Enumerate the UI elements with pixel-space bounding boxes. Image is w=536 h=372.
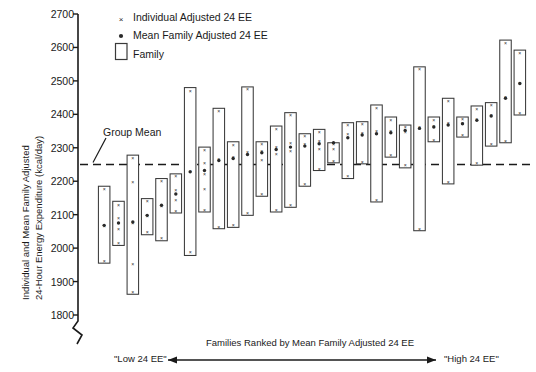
individual-marker-x-icon: ×: [217, 224, 220, 230]
individual-marker-x-icon: ×: [174, 187, 177, 193]
family-mean-marker-dot-icon: [332, 141, 335, 144]
family-group: ×××: [98, 186, 110, 264]
family-group: ×××: [342, 122, 354, 179]
family-range-box: [156, 179, 168, 241]
family-group: ×××: [414, 66, 426, 232]
individual-marker-x-icon: ×: [346, 131, 349, 137]
individual-marker-x-icon: ×: [346, 122, 349, 128]
family-group: ××××: [285, 112, 297, 208]
individual-marker-x-icon: ×: [289, 140, 292, 146]
family-mean-marker-dot-icon: [131, 220, 134, 223]
family-mean-marker-dot-icon: [160, 204, 163, 207]
individual-marker-x-icon: ×: [146, 229, 149, 235]
family-mean-marker-dot-icon: [475, 119, 478, 122]
family-group: ××××: [256, 141, 268, 197]
family-mean-marker-dot-icon: [317, 142, 320, 145]
family-mean-marker-dot-icon: [217, 159, 220, 162]
family-range-box: [270, 126, 282, 212]
arrow-right-icon: [427, 356, 436, 363]
individual-marker-x-icon: ×: [447, 98, 450, 104]
individual-marker-x-icon: ×: [246, 210, 249, 216]
family-mean-marker-dot-icon: [174, 192, 177, 195]
family-mean-marker-dot-icon: [102, 224, 105, 227]
individual-marker-x-icon: ×: [289, 148, 292, 154]
individual-marker-x-icon: ×: [289, 112, 292, 118]
individual-marker-x-icon: ×: [447, 179, 450, 185]
individual-marker-x-icon: ×: [504, 40, 507, 46]
individual-marker-x-icon: ×: [518, 50, 521, 56]
family-group: ×××: [184, 88, 196, 256]
family-range-box: [285, 113, 297, 208]
family-mean-marker-dot-icon: [360, 133, 363, 136]
family-group: ××××: [170, 173, 182, 213]
family-group: ×××: [299, 133, 311, 187]
individual-marker-x-icon: ×: [289, 202, 292, 208]
individual-marker-x-icon: ×: [432, 117, 435, 123]
individual-marker-x-icon: ×: [131, 179, 134, 185]
individual-marker-x-icon: ×: [318, 129, 321, 135]
individual-marker-x-icon: ×: [117, 226, 120, 232]
family-group: ×××: [385, 117, 397, 159]
individual-marker-x-icon: ×: [361, 121, 364, 127]
individual-marker-x-icon: ×: [160, 178, 163, 184]
family-mean-marker-dot-icon: [203, 169, 206, 172]
individual-marker-x-icon: ×: [461, 132, 464, 138]
family-group: ×××: [356, 121, 368, 165]
individual-marker-x-icon: ×: [232, 222, 235, 228]
individual-marker-x-icon: ×: [174, 197, 177, 203]
individual-marker-x-icon: ×: [303, 181, 306, 187]
individual-marker-x-icon: ×: [332, 158, 335, 164]
family-range-box: [442, 98, 454, 184]
family-mean-marker-dot-icon: [145, 214, 148, 217]
family-mean-marker-dot-icon: [231, 157, 234, 160]
individual-marker-x-icon: ×: [475, 106, 478, 112]
family-group: ×××: [213, 108, 225, 229]
family-mean-marker-dot-icon: [403, 129, 406, 132]
family-group: ×××: [442, 98, 454, 185]
individual-marker-x-icon: ×: [490, 141, 493, 147]
individual-marker-x-icon: ×: [131, 289, 134, 295]
individual-marker-x-icon: ×: [203, 160, 206, 166]
family-mean-marker-dot-icon: [418, 127, 421, 130]
individual-marker-x-icon: ×: [332, 146, 335, 152]
family-group: ××××: [270, 126, 282, 213]
family-mean-marker-dot-icon: [246, 153, 249, 156]
family-range-box: [485, 103, 497, 146]
individual-marker-x-icon: ×: [189, 88, 192, 94]
family-group: ×××: [457, 116, 469, 139]
y-axis-line: [73, 14, 82, 344]
family-group: ×××: [328, 141, 340, 164]
family-group: ×××: [428, 117, 440, 143]
individual-marker-x-icon: ×: [504, 138, 507, 144]
family-mean-marker-dot-icon: [504, 97, 507, 100]
individual-marker-x-icon: ×: [318, 146, 321, 152]
plot-canvas: ××××××××××××××××××××××××××××××××××××××××…: [0, 0, 536, 372]
individual-marker-x-icon: ×: [103, 186, 106, 192]
individual-marker-x-icon: ×: [375, 197, 378, 203]
individual-marker-x-icon: ×: [117, 240, 120, 246]
individual-marker-x-icon: ×: [361, 159, 364, 165]
family-group: ×××: [514, 50, 526, 116]
family-group: ××××: [313, 129, 325, 172]
family-range-box: [500, 40, 512, 143]
individual-marker-x-icon: ×: [189, 249, 192, 255]
individual-marker-x-icon: ×: [117, 202, 120, 208]
family-group: ×××: [141, 198, 153, 235]
family-range-box: [414, 67, 426, 231]
individual-marker-x-icon: ×: [389, 117, 392, 123]
individual-marker-x-icon: ×: [389, 152, 392, 158]
individual-marker-x-icon: ×: [217, 108, 220, 114]
family-mean-marker-dot-icon: [389, 131, 392, 134]
family-mean-marker-dot-icon: [274, 148, 277, 151]
individual-marker-x-icon: ×: [203, 147, 206, 153]
family-group: ×××××: [127, 155, 139, 295]
individual-marker-x-icon: ×: [318, 166, 321, 172]
individual-marker-x-icon: ×: [303, 133, 306, 139]
legend-marker-dot-icon: [119, 34, 123, 38]
family-mean-marker-dot-icon: [346, 136, 349, 139]
family-mean-marker-dot-icon: [303, 144, 306, 147]
individual-marker-x-icon: ×: [260, 157, 263, 163]
arrow-left-icon: [168, 356, 177, 363]
individual-marker-x-icon: ×: [260, 141, 263, 147]
family-range-box: [199, 147, 211, 212]
